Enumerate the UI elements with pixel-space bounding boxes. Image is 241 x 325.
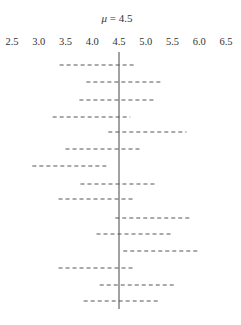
- interval-plot-area: [0, 0, 241, 325]
